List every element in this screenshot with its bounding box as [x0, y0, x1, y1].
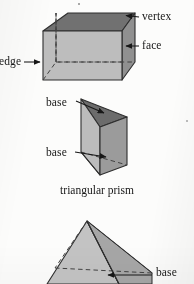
label-vertex: vertex: [142, 11, 171, 23]
box-top-face: [43, 13, 135, 31]
label-edge: edge: [0, 56, 21, 68]
box-front-face: [43, 31, 122, 80]
solids-artwork: [0, 0, 194, 284]
scan-speck: [78, 3, 80, 5]
triangular-prism-shape: [81, 99, 127, 175]
label-base-top: base: [46, 97, 67, 109]
label-face: face: [142, 40, 162, 52]
prism-right-face: [100, 117, 127, 175]
rectangular-prism-shape: [43, 13, 135, 80]
caption-triangular-prism: triangular prism: [0, 184, 194, 196]
figure-canvas: vertex face edge base base base triangul…: [0, 0, 194, 284]
scan-speck: [186, 120, 188, 122]
label-base-bottom: base: [46, 147, 67, 159]
label-base-pyramid: base: [156, 267, 177, 279]
